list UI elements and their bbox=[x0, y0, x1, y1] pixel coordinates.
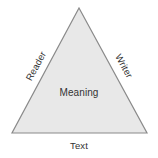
label-text: Text bbox=[70, 141, 88, 151]
label-meaning: Meaning bbox=[59, 88, 98, 98]
communication-triangle-diagram: Reader Writer Meaning Text bbox=[0, 0, 158, 158]
triangle-graphic bbox=[0, 0, 158, 158]
